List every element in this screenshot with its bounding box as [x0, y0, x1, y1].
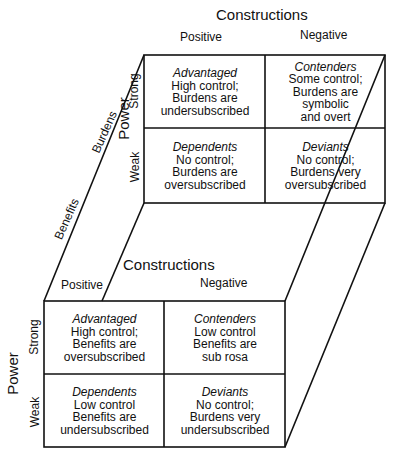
- back-cell-deviants: Deviants No control; Burdens very oversu…: [266, 129, 385, 203]
- front-col-negative: Negative: [200, 276, 247, 290]
- back-row-strong: Strong: [127, 73, 141, 108]
- front-cell-contenders: Contenders Low control Benefits are sub …: [165, 302, 285, 374]
- back-col-positive: Positive: [180, 30, 222, 44]
- front-cell-deviants: Deviants No control; Burdens very unders…: [165, 375, 285, 447]
- back-constructions-title: Constructions: [216, 6, 308, 23]
- front-constructions-title: Constructions: [123, 256, 215, 273]
- front-row-strong: Strong: [27, 319, 41, 354]
- front-cell-advantaged: Advantaged High control; Benefits are ov…: [45, 302, 164, 374]
- back-row-weak: Weak: [128, 152, 142, 182]
- back-col-negative: Negative: [300, 28, 347, 42]
- front-cell-dependents: Dependents Low control Benefits are unde…: [45, 375, 164, 447]
- back-cell-advantaged: Advantaged High control; Burdens are und…: [145, 56, 265, 128]
- back-cell-contenders: Contenders Some control; Burdens are sym…: [266, 56, 385, 128]
- back-cell-dependents: Dependents No control; Burdens are overs…: [145, 129, 265, 203]
- front-power-label: Power: [4, 352, 21, 395]
- front-col-positive: Positive: [61, 278, 103, 292]
- front-row-weak: Weak: [28, 397, 42, 427]
